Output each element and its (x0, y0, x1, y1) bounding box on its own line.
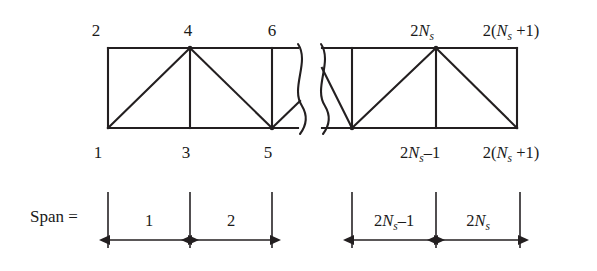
svg-text:2Ns: 2Ns (410, 21, 434, 42)
node-label-2Ns-plus-1-top: 2(Ns +1) (483, 21, 539, 42)
node-label-2Ns-minus-1-suffix: –1 (423, 143, 441, 162)
node-label-2: 2 (92, 21, 101, 40)
node-dot-2Ns (434, 46, 439, 51)
diagonal-1-4 (108, 48, 190, 128)
truss-left-segment (108, 46, 300, 131)
node-label-2Ns-prefix: 2 (410, 21, 418, 40)
span-number-2Ns-sub: s (485, 220, 490, 232)
node-dot-4 (188, 46, 193, 51)
truss-figure: 2 4 6 1 3 5 2Ns 2(Ns +1) 2Ns–1 2(N (0, 0, 597, 271)
diagonal-apex-to-end (436, 48, 517, 128)
break-symbol (298, 44, 329, 134)
svg-text:2Ns–1: 2Ns–1 (400, 143, 440, 164)
node-label-2Ns-sub: s (429, 30, 434, 42)
node-label-5: 5 (264, 143, 273, 162)
node-label-2Ns-minus-1-prefix: 2 (400, 143, 408, 162)
node-label-2Ns-plus-1-bottom-suffix: +1) (512, 143, 539, 162)
svg-text:2(Ns +1): 2(Ns +1) (483, 143, 539, 164)
svg-text:2Ns: 2Ns (466, 211, 490, 232)
node-label-1: 1 (94, 143, 103, 162)
break-curve-left (298, 44, 306, 134)
diagonal-rising-to-apex (352, 48, 436, 128)
diagonal-4-5 (190, 48, 272, 128)
span-number-1: 1 (145, 211, 153, 230)
node-label-2Ns-plus-1-bottom-prefix: 2( (483, 143, 497, 162)
node-dot-5 (270, 126, 275, 131)
span-number-2Ns-minus-1-suffix: –1 (397, 211, 415, 230)
span-number-2: 2 (227, 211, 235, 230)
span-label: Span = (30, 207, 78, 226)
span-number-2Ns: 2Ns (466, 211, 490, 232)
svg-text:2Ns–1: 2Ns–1 (374, 211, 414, 232)
break-curve-right (321, 44, 329, 134)
node-label-6: 6 (268, 21, 277, 40)
svg-text:2(Ns +1): 2(Ns +1) (483, 21, 539, 42)
node-label-2Ns-plus-1-top-suffix: +1) (512, 21, 539, 40)
truss-diagram-svg: 2 4 6 1 3 5 2Ns 2(Ns +1) 2Ns–1 2(N (0, 0, 597, 271)
node-label-4: 4 (184, 21, 193, 40)
span-number-2Ns-prefix: 2 (466, 211, 474, 230)
dimension-group-right: 2Ns–1 2Ns (352, 192, 520, 248)
diagonal-prev-in (322, 68, 352, 128)
node-label-2Ns-plus-1-bottom: 2(Ns +1) (483, 143, 539, 164)
node-label-3: 3 (182, 143, 191, 162)
diagonal-5-next (272, 101, 300, 128)
node-label-2Ns: 2Ns (410, 21, 434, 42)
truss-right-segment (322, 46, 517, 131)
dimension-group-left: 1 2 (108, 192, 272, 248)
span-number-2Ns-minus-1-prefix: 2 (374, 211, 382, 230)
node-label-2Ns-minus-1: 2Ns–1 (400, 143, 440, 164)
node-dot-2Ns-1 (350, 126, 355, 131)
node-label-2Ns-plus-1-top-prefix: 2( (483, 21, 497, 40)
span-number-2Ns-minus-1: 2Ns–1 (374, 211, 414, 232)
